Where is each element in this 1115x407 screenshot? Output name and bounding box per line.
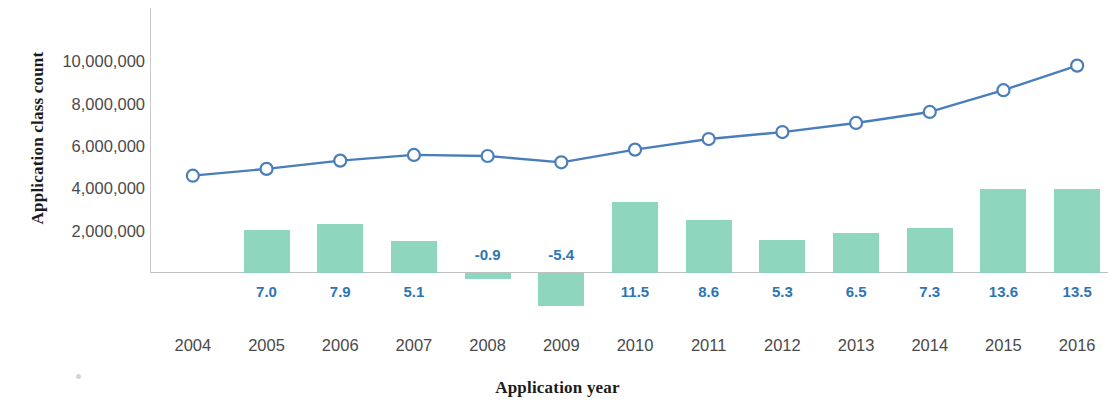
bar-value-label: 5.1	[403, 283, 424, 300]
line-marker	[261, 163, 273, 175]
bar-value-label: 7.0	[256, 283, 277, 300]
line-marker	[997, 84, 1009, 96]
line-marker	[482, 150, 494, 162]
x-axis-tick-label: 2007	[396, 336, 433, 355]
line-marker	[850, 117, 862, 129]
y-axis-tick-label: 4,000,000	[30, 179, 145, 198]
bar	[465, 273, 511, 279]
x-axis-tick-label: 2015	[985, 336, 1022, 355]
line-marker	[629, 144, 641, 156]
bar-value-label: 7.3	[919, 283, 940, 300]
bar	[538, 273, 584, 306]
y-axis-tick-label: 8,000,000	[30, 94, 145, 113]
line-series	[150, 8, 1108, 273]
x-axis-tick-label: 2016	[1059, 336, 1096, 355]
x-axis-tick-label: 2011	[691, 336, 726, 355]
bar-value-label: 6.5	[846, 283, 867, 300]
bar-value-label: 7.9	[330, 283, 351, 300]
x-axis-tick-label: 2008	[469, 336, 506, 355]
line-marker	[334, 155, 346, 167]
y-axis-tick-label: 10,000,000	[30, 52, 145, 71]
bar-value-label: 8.6	[698, 283, 719, 300]
line-path	[193, 66, 1077, 176]
y-axis-tick-label: 2,000,000	[30, 221, 145, 240]
plot-area	[150, 8, 1108, 273]
line-marker	[703, 133, 715, 145]
line-marker	[187, 170, 199, 182]
x-axis-tick-label: 2014	[911, 336, 948, 355]
bar-value-label: -0.9	[475, 246, 501, 263]
x-axis-tick-labels: 2004200520062007200820092010201120122013…	[150, 336, 1108, 360]
line-marker	[408, 149, 420, 161]
line-marker	[555, 156, 567, 168]
line-marker	[1071, 60, 1083, 72]
x-axis-tick-label: 2004	[174, 336, 211, 355]
bar-value-label: 13.5	[1063, 283, 1092, 300]
y-axis-tick-labels: 2,000,0004,000,0006,000,0008,000,00010,0…	[30, 0, 145, 290]
x-axis-tick-label: 2009	[543, 336, 580, 355]
x-axis-title: Application year	[0, 378, 1115, 398]
x-axis-tick-label: 2010	[617, 336, 654, 355]
x-axis-tick-label: 2006	[322, 336, 359, 355]
bar-value-label: 5.3	[772, 283, 793, 300]
x-axis-tick-label: 2012	[764, 336, 801, 355]
x-axis-tick-label: 2005	[248, 336, 285, 355]
line-marker	[776, 126, 788, 138]
bar-value-label: -5.4	[548, 246, 574, 263]
page-speck	[76, 374, 81, 379]
bar-value-label: 13.6	[989, 283, 1018, 300]
bar-value-label: 11.5	[621, 283, 649, 300]
y-axis-tick-label: 6,000,000	[30, 137, 145, 156]
line-marker	[924, 106, 936, 118]
chart-figure: Application class count 2,000,0004,000,0…	[0, 0, 1115, 407]
x-axis-tick-label: 2013	[838, 336, 875, 355]
